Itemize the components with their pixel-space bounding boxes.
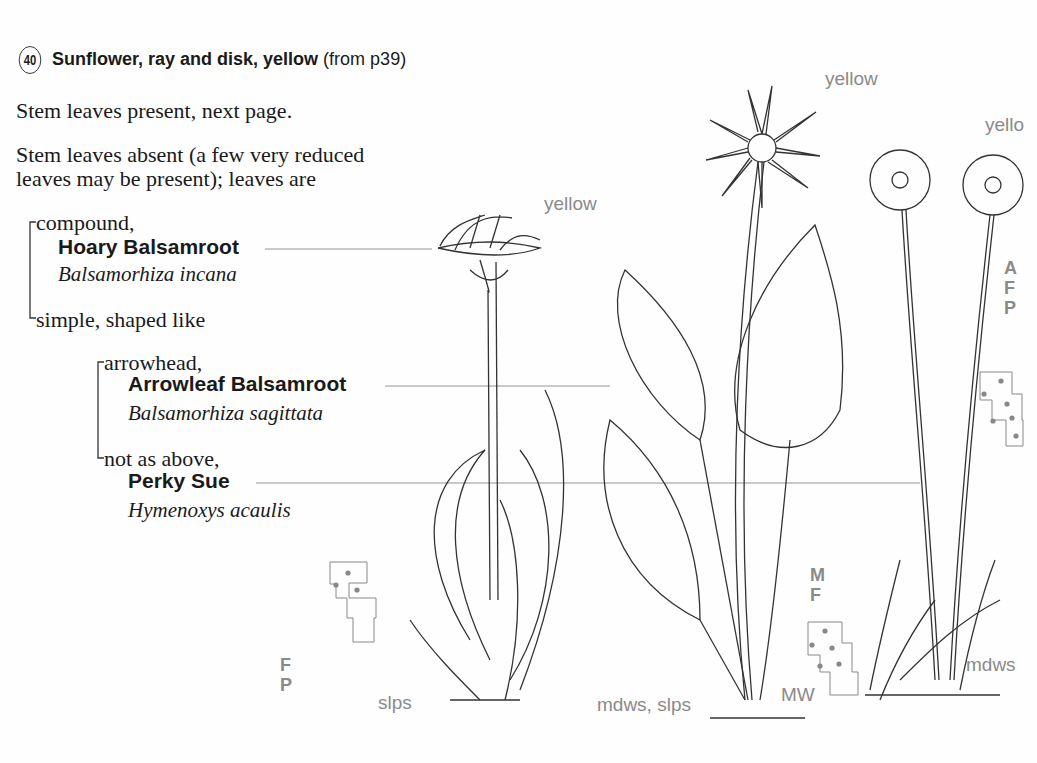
codes-hoary: F P <box>280 655 292 695</box>
habitat-arrowleaf: mdws, slps <box>597 694 691 716</box>
bracket-2 <box>98 362 104 458</box>
hoary-balsamroot-drawing <box>410 215 564 700</box>
habitat-perky: mdws <box>966 654 1016 676</box>
perky-sue-drawing <box>865 150 1023 700</box>
codes-perky: A F P <box>1004 258 1017 318</box>
habitat-extra-arrowleaf: MW <box>781 684 815 706</box>
codes-arrowleaf: M F <box>810 565 825 605</box>
color-label-arrowleaf: yellow <box>825 68 878 90</box>
illustration <box>0 0 1037 763</box>
bracket-1 <box>30 222 36 318</box>
color-label-hoary: yellow <box>544 193 597 215</box>
color-label-perky: yello <box>985 114 1024 136</box>
habitat-hoary: slps <box>378 692 412 714</box>
arrowleaf-balsamroot-drawing <box>604 86 843 718</box>
